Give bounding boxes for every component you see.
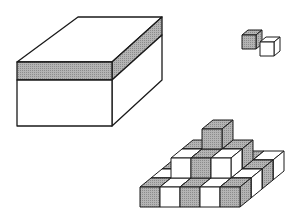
cube-front-face: [242, 35, 256, 49]
cube-front-face: [191, 158, 211, 178]
cube-front-face: [220, 187, 240, 207]
cube-front-face: [200, 187, 220, 207]
cube-front-face: [211, 158, 231, 178]
cube-front-face: [260, 42, 274, 56]
cube-pyramid: [140, 120, 284, 207]
cube-front-face: [140, 187, 160, 207]
large-box: [17, 17, 162, 126]
cube-front-face: [180, 187, 200, 207]
cube-front-face: [202, 129, 222, 149]
diagram-canvas: [0, 0, 308, 224]
cube-front-face: [171, 158, 191, 178]
cube-pair: [242, 30, 280, 56]
shaded-cube: [242, 30, 262, 49]
box-front-band: [17, 62, 112, 80]
cube-front-face: [160, 187, 180, 207]
white-cube: [260, 37, 280, 56]
box-front-face: [17, 80, 112, 126]
